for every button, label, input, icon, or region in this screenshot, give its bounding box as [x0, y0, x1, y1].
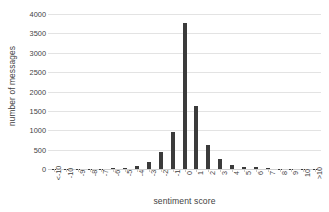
bar-slot — [238, 14, 250, 169]
plot-area — [48, 14, 321, 169]
bar-slot — [48, 14, 60, 169]
bar-slot — [72, 14, 84, 169]
bar-slot — [274, 14, 286, 169]
x-axis-title: sentiment score — [48, 196, 321, 206]
bar-slot — [309, 14, 321, 169]
bar-slot — [107, 14, 119, 169]
bar-slot — [250, 14, 262, 169]
x-axis-tick-label: >10 — [315, 167, 324, 179]
x-axis-tick: 10 — [297, 172, 309, 198]
x-axis-tick: -10 — [60, 172, 72, 198]
x-axis-tick: 0 — [179, 172, 191, 198]
x-axis-tick: -6 — [107, 172, 119, 198]
bar-series — [48, 14, 321, 169]
bar-slot — [119, 14, 131, 169]
x-axis-tick: >10 — [309, 172, 321, 198]
x-axis-tick: 9 — [286, 172, 298, 198]
bar-slot — [60, 14, 72, 169]
bar-slot — [286, 14, 298, 169]
x-axis-tick: -8 — [84, 172, 96, 198]
bar-slot — [143, 14, 155, 169]
bar — [206, 145, 210, 169]
x-axis-tick: -4 — [131, 172, 143, 198]
x-axis-tick: -3 — [143, 172, 155, 198]
y-axis-tick-label: 3000 — [30, 48, 46, 57]
bar-slot — [167, 14, 179, 169]
bar-slot — [179, 14, 191, 169]
bar — [171, 132, 175, 169]
bar — [218, 159, 222, 169]
x-axis-tick: <-10 — [48, 172, 60, 198]
x-axis-tick: 2 — [202, 172, 214, 198]
bar-slot — [262, 14, 274, 169]
x-axis-tick: 5 — [238, 172, 250, 198]
x-axis-tick: -1 — [167, 172, 179, 198]
bar — [147, 162, 151, 169]
x-axis-tick: -5 — [119, 172, 131, 198]
bar — [159, 152, 163, 169]
y-axis-tick-label: 500 — [34, 145, 46, 154]
x-axis-tick: 7 — [262, 172, 274, 198]
bar — [183, 23, 187, 169]
y-axis-tick-label: 1000 — [30, 126, 46, 135]
y-axis-tick-label: 0 — [42, 165, 46, 174]
sentiment-score-histogram: number of messages 050010001500200025003… — [0, 0, 329, 212]
bar-slot — [155, 14, 167, 169]
y-axis-tick-label: 4000 — [30, 10, 46, 19]
y-axis-tick-labels: 05001000150020002500300035004000 — [18, 14, 46, 169]
bar-slot — [191, 14, 203, 169]
y-axis-title-text: number of messages — [7, 46, 17, 126]
y-axis-tick-label: 3500 — [30, 29, 46, 38]
bar-slot — [96, 14, 108, 169]
bar-slot — [214, 14, 226, 169]
bar-slot — [131, 14, 143, 169]
y-axis-tick-label: 2000 — [30, 87, 46, 96]
x-axis-tick: 4 — [226, 172, 238, 198]
bar-slot — [84, 14, 96, 169]
x-axis-tick-labels: <-10-10-9-8-7-6-5-4-3-2-1012345678910>10 — [48, 172, 321, 198]
bar-slot — [226, 14, 238, 169]
bar-slot — [202, 14, 214, 169]
x-axis-tick: -2 — [155, 172, 167, 198]
x-axis-tick: -9 — [72, 172, 84, 198]
x-axis-tick: 3 — [214, 172, 226, 198]
x-axis-tick: 1 — [191, 172, 203, 198]
x-axis-tick: 8 — [274, 172, 286, 198]
bar — [194, 106, 198, 169]
y-axis-tick-label: 1500 — [30, 106, 46, 115]
x-axis-tick: -7 — [96, 172, 108, 198]
x-axis-tick: 6 — [250, 172, 262, 198]
y-axis-tick-label: 2500 — [30, 68, 46, 77]
bar-slot — [297, 14, 309, 169]
